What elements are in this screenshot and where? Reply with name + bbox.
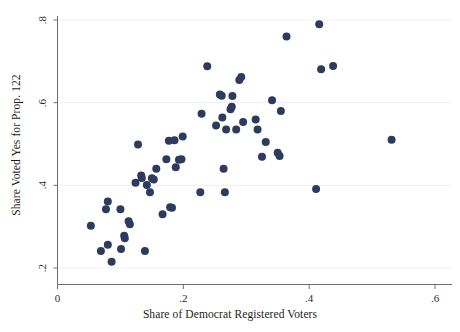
data-point [104, 197, 112, 205]
y-axis-title-text: Share Voted Yes for Prop. 122 [10, 74, 22, 215]
data-point [108, 258, 116, 266]
x-tick-label: .6 [431, 292, 439, 304]
data-point [177, 155, 185, 163]
data-point [198, 110, 206, 118]
data-point [152, 165, 160, 173]
x-tick-label: 0 [55, 292, 61, 304]
data-point [254, 126, 262, 134]
data-point [87, 222, 95, 230]
data-point [218, 92, 226, 100]
data-point [116, 205, 124, 213]
data-point [97, 247, 105, 255]
x-tick-label: .2 [179, 292, 187, 304]
data-point [218, 114, 226, 122]
y-tick-label: .4 [36, 181, 48, 189]
data-point [315, 20, 323, 28]
data-point [220, 165, 228, 173]
data-point [172, 163, 180, 171]
data-point [143, 181, 151, 189]
chart-canvas [0, 0, 460, 332]
data-point [239, 118, 247, 126]
data-point [146, 188, 154, 196]
data-point [138, 174, 146, 182]
data-point [171, 136, 179, 144]
y-tick-label: .8 [36, 16, 48, 24]
data-point [117, 245, 125, 253]
scatter-plot-figure: 0.2.4.6 .2.4.6.8 Share of Democrat Regis… [0, 0, 460, 332]
data-point [388, 136, 396, 144]
data-point [102, 205, 110, 213]
data-point [277, 107, 285, 115]
gridlines [59, 20, 453, 268]
data-point [212, 121, 220, 129]
data-point [262, 138, 270, 146]
axis-lines [58, 16, 453, 285]
data-point [104, 241, 112, 249]
data-point [196, 188, 204, 196]
data-point [162, 155, 170, 163]
data-point [258, 153, 266, 161]
data-point [317, 65, 325, 73]
data-point [134, 140, 142, 148]
y-tick-label: .6 [36, 99, 48, 107]
data-point [329, 62, 337, 70]
plot-area: 0.2.4.6 .2.4.6.8 [0, 0, 460, 332]
data-point [168, 204, 176, 212]
data-point [232, 126, 240, 134]
data-point [150, 176, 158, 184]
data-point [312, 185, 320, 193]
data-point [203, 62, 211, 70]
y-axis-title: Share Voted Yes for Prop. 122 [8, 0, 24, 290]
data-point [141, 247, 149, 255]
data-point [179, 133, 187, 141]
data-point [252, 116, 260, 124]
data-point [228, 92, 236, 100]
data-point [283, 33, 291, 41]
x-tick-label: .4 [305, 292, 313, 304]
data-point [276, 152, 284, 160]
data-point [237, 73, 245, 81]
data-point [121, 234, 129, 242]
data-point [268, 96, 276, 104]
data-point [222, 126, 230, 134]
axis-ticks [54, 20, 436, 289]
data-point [159, 210, 167, 218]
data-point [126, 220, 134, 228]
data-point [132, 179, 140, 187]
data-point [228, 103, 236, 111]
y-tick-label: .2 [36, 264, 48, 272]
x-axis-title: Share of Democrat Registered Voters [0, 308, 460, 320]
data-point-group [87, 20, 396, 266]
data-point [221, 188, 229, 196]
